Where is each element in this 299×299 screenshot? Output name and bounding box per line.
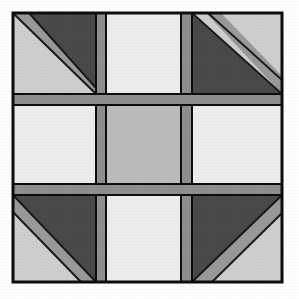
quilt-block-illustration: [0, 0, 299, 299]
sashing-band-horizontal-lower: [13, 184, 282, 195]
panel-fill: [106, 105, 181, 184]
panel-fill: [13, 105, 96, 184]
panel-fill: [106, 13, 181, 94]
corner-block-top-left: [13, 13, 96, 94]
sashing-band-vertical-right-bottom: [181, 195, 192, 282]
panel-middle-right: [192, 105, 282, 184]
sashing-band-vertical-left-middle: [96, 105, 106, 184]
corner-block-bottom-left: [13, 195, 96, 282]
sashing-band-vertical-left-bottom: [96, 195, 106, 282]
quilt-artwork-canvas: [0, 0, 299, 299]
panel-fill: [106, 195, 181, 282]
sashing-band-vertical-right-middle: [181, 105, 192, 184]
panel-middle-left: [13, 105, 96, 184]
corner-block-bottom-right: [192, 195, 282, 282]
sashing-band-vertical-right-top: [181, 13, 192, 94]
sashing-band-horizontal-upper: [13, 94, 282, 105]
panel-top-center: [106, 13, 181, 94]
sashing-band-vertical-left-top: [96, 13, 106, 94]
panel-center: [106, 105, 181, 184]
panel-fill: [192, 105, 282, 184]
panel-bottom-center: [106, 195, 181, 282]
corner-block-top-right: [192, 13, 282, 94]
